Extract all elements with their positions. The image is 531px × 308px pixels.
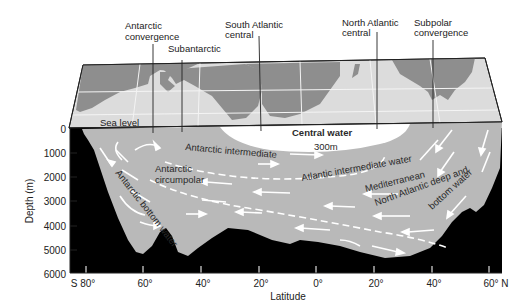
label-300m: 300m: [314, 141, 338, 152]
x-tick-n20: 20°: [368, 278, 383, 289]
x-tick-n60: 60° N: [483, 278, 508, 289]
y-tick-6000: 6000: [44, 269, 67, 280]
x-axis-ticks: S 80° 60° 40° 20° 0° 20° 40° 60° N: [71, 278, 509, 289]
x-axis-label: Latitude: [270, 291, 306, 302]
label-antarctic-circumpolar-1: Antarctic: [155, 163, 192, 174]
sea-level-label: Sea level: [100, 117, 139, 128]
y-axis-ticks: 0 1000 2000 3000 4000 5000 6000: [44, 124, 67, 280]
y-axis-label: Depth (m): [24, 179, 35, 223]
x-tick-n40: 40°: [426, 278, 441, 289]
callout-subantarctic: Subantarctic: [168, 43, 221, 54]
y-tick-2000: 2000: [44, 172, 67, 183]
x-tick-0: 0°: [313, 278, 323, 289]
y-tick-4000: 4000: [44, 221, 67, 232]
label-central-water: Central water: [292, 127, 352, 138]
y-tick-0: 0: [60, 124, 66, 135]
x-tick-s80: S 80°: [71, 278, 96, 289]
x-tick-s40: 40°: [195, 278, 210, 289]
callout-subpolar-convergence-2: convergence: [414, 27, 468, 38]
ocean-cross-section-diagram: Antarctic convergence Subantarctic South…: [0, 0, 531, 308]
callout-antarctic-convergence-1: Antarctic: [125, 20, 162, 31]
callout-south-atlantic-central-2: central: [225, 29, 254, 40]
x-tick-s20: 20°: [253, 278, 268, 289]
x-tick-s60: 60°: [137, 278, 152, 289]
label-antarctic-circumpolar-2: circumpolar: [155, 174, 204, 185]
y-tick-5000: 5000: [44, 245, 67, 256]
callout-antarctic-convergence-2: convergence: [125, 31, 179, 42]
y-tick-1000: 1000: [44, 148, 67, 159]
callout-north-atlantic-central-2: central: [342, 27, 371, 38]
y-tick-3000: 3000: [44, 196, 67, 207]
